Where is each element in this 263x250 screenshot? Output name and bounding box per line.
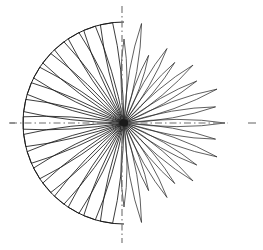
- lobe-petal: [124, 123, 197, 165]
- lobe-origin-core: [120, 120, 128, 127]
- lobe-petal: [124, 62, 175, 123]
- lobe-petal: [124, 123, 175, 184]
- origin-blob: [120, 120, 128, 127]
- lobe-petal: [124, 81, 197, 123]
- lobe-petal: [124, 49, 167, 123]
- lobe-diagram-svg: [0, 0, 263, 250]
- polar-lobe-figure: [0, 0, 263, 250]
- reference-axes-group: [9, 6, 256, 243]
- lobe-petal: [124, 123, 167, 197]
- lobe-petal: [124, 65, 193, 123]
- lobe-petal: [124, 123, 193, 181]
